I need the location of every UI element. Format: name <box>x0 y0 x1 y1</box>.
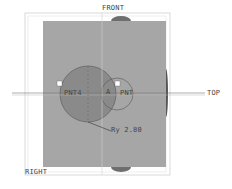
cad-viewport[interactable] <box>0 0 232 189</box>
pnt4-label[interactable]: PNT4 <box>64 89 82 97</box>
pnt-label[interactable]: PNT <box>120 89 133 97</box>
axis-label[interactable]: A <box>106 88 110 96</box>
dimension-label[interactable]: Ry 2.80 <box>111 126 142 134</box>
pnt4-marker-icon[interactable] <box>57 81 62 86</box>
right-plane-label[interactable]: RIGHT <box>25 168 47 176</box>
front-plane-label[interactable]: FRONT <box>102 4 124 12</box>
pnt-marker-icon[interactable] <box>115 81 120 86</box>
top-plane-label[interactable]: TOP <box>207 89 220 97</box>
